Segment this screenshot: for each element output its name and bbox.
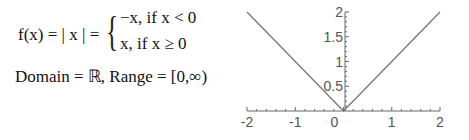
y-tick-label: 1.5 (324, 29, 344, 45)
abs-value-plot: -2-1012 0.511.52 (0, 0, 469, 140)
y-tick-label: 0.5 (324, 78, 344, 94)
y-tick-label: 1 (335, 54, 343, 70)
abs-value-line (247, 12, 440, 111)
x-tick-label: 1 (388, 114, 396, 130)
x-tick-label: -2 (241, 114, 254, 130)
y-ticks (345, 12, 349, 106)
x-tick-label: -1 (289, 114, 302, 130)
x-tick-labels: -2-1012 (241, 114, 444, 130)
y-tick-labels: 0.511.52 (324, 4, 344, 94)
x-tick-label: 0 (331, 114, 339, 130)
y-tick-label: 2 (335, 4, 343, 20)
x-tick-label: 2 (436, 114, 444, 130)
